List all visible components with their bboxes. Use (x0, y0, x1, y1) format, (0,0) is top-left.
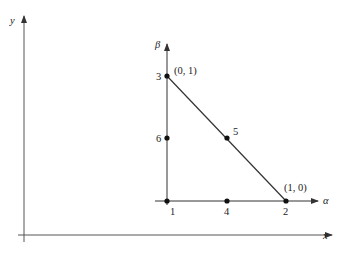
node-3-label: 3 (156, 71, 161, 82)
node-1-label: 1 (170, 206, 175, 217)
node-4-label: 4 (224, 206, 230, 217)
node-5 (224, 135, 229, 140)
node-2 (283, 198, 288, 203)
alpha-axis-label: α (323, 195, 329, 206)
beta-axis-label: β (154, 39, 161, 50)
node-2-coord: (1, 0) (284, 182, 307, 194)
node-3-coord: (0, 1) (174, 65, 197, 77)
y-axis-label: y (9, 15, 15, 26)
node-1 (164, 198, 169, 203)
node-6 (164, 135, 169, 140)
node-3 (164, 73, 169, 78)
node-5-label: 5 (233, 126, 238, 137)
triangle-element-diagram: y x β α 1 2 (1, 0) 3 (0, 1) 4 5 6 (0, 0, 343, 255)
node-4 (224, 198, 229, 203)
node-2-label: 2 (283, 206, 288, 217)
x-axis-label: x (322, 230, 328, 241)
node-6-label: 6 (156, 133, 161, 144)
